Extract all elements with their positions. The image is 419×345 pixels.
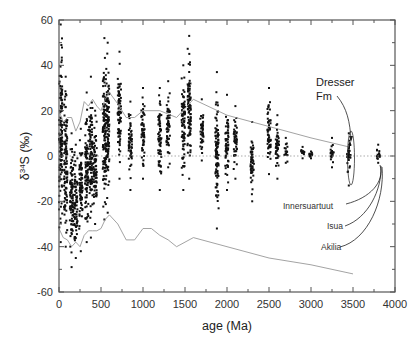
y-tick-label: -40 <box>37 241 53 253</box>
x-tick-label: 500 <box>92 298 110 310</box>
svg-text:Dresser: Dresser <box>316 76 355 88</box>
x-tick-label: 2500 <box>257 298 281 310</box>
x-tick-label: 1500 <box>173 298 197 310</box>
data-points <box>58 24 381 269</box>
y-tick-label: 0 <box>47 150 53 162</box>
svg-text:Isua: Isua <box>327 221 343 231</box>
x-tick-label: 0 <box>56 298 62 310</box>
x-tick-label: 4000 <box>383 298 407 310</box>
x-tick-label: 3000 <box>299 298 323 310</box>
svg-text:Innersuartuut: Innersuartuut <box>283 201 334 211</box>
x-tick-label: 2000 <box>215 298 239 310</box>
isotope-scatter-chart: 05001000150020002500300035004000 -60-40-… <box>0 0 419 345</box>
y-tick-label: 20 <box>41 105 53 117</box>
x-tick-label: 3500 <box>341 298 365 310</box>
annotation-innersuartuut: Innersuartuut <box>283 165 381 211</box>
y-axis-title: δ34S (‰) <box>18 132 32 181</box>
y-tick-label: 40 <box>41 59 53 71</box>
y-tick-label: -60 <box>37 286 53 298</box>
svg-text:Fm: Fm <box>316 90 332 102</box>
y-tick-label: -20 <box>37 195 53 207</box>
y-tick-label: 60 <box>41 14 53 26</box>
x-tick-label: 1000 <box>131 298 155 310</box>
x-axis-title: age (Ma) <box>202 319 252 333</box>
annotation-dresser-fm: Dresser Fm <box>316 76 355 185</box>
svg-text:Akilia: Akilia <box>321 242 342 252</box>
